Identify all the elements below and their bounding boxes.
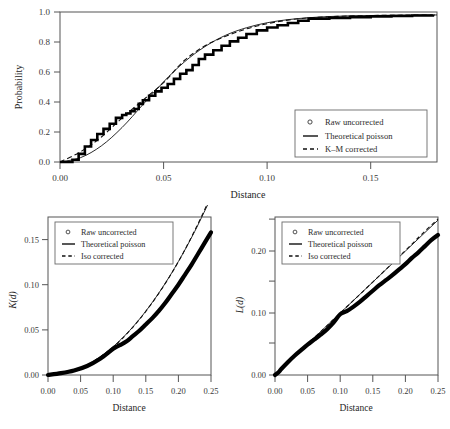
x-axis-tick-labels: 0.00 0.05 0.10 0.15 0.20 0.25 (41, 386, 219, 396)
legend-label-raw: Raw uncorrected (81, 228, 137, 237)
y-axis-ticks (54, 12, 60, 162)
figure-container: 0.0 0.2 0.4 0.6 0.8 1.0 0.00 0.05 0.10 0… (0, 0, 450, 429)
ripley-k-panel: 0.00 0.05 0.10 0.15 0.00 0.05 0.10 0.15 … (0, 205, 225, 429)
x-tick-label: 0.00 (268, 386, 283, 396)
x-tick-label: 0.10 (259, 173, 275, 183)
top-panel-svg: 0.0 0.2 0.4 0.6 0.8 1.0 0.00 0.05 0.10 0… (0, 0, 450, 205)
x-tick-label: 0.00 (41, 386, 56, 396)
x-tick-label: 0.10 (106, 386, 121, 396)
y-tick-label: 1.0 (39, 7, 51, 17)
y-tick-label: 0.6 (39, 67, 51, 77)
x-tick-label: 0.05 (156, 173, 172, 183)
x-tick-label: 0.15 (363, 173, 379, 183)
x-tick-label: 0.20 (171, 386, 186, 396)
legend: Raw uncorrected Theoretical poisson Iso … (282, 222, 400, 264)
x-tick-label: 0.00 (52, 173, 68, 183)
y-tick-label: 0.20 (251, 246, 266, 256)
x-tick-label: 0.05 (300, 386, 315, 396)
bottom-right-panel-svg: 0.00 0.10 0.20 0.00 0.05 0.10 0.15 0.20 … (225, 205, 450, 429)
y-tick-label: 0.2 (39, 127, 50, 137)
x-axis-tick-labels: 0.00 0.05 0.10 0.15 (52, 173, 379, 183)
x-axis-title: Distance (231, 189, 267, 200)
y-axis-ticks (269, 219, 275, 375)
y-tick-label: 0.00 (24, 370, 39, 380)
legend-label-raw: Raw uncorrected (308, 228, 364, 237)
x-axis-tick-labels: 0.00 0.05 0.10 0.15 0.20 0.25 (268, 386, 446, 396)
y-axis-title: L(d) (235, 297, 246, 314)
svg-text:K(d): K(d) (8, 291, 19, 309)
x-tick-label: 0.05 (73, 386, 88, 396)
y-axis-tick-labels: 0.00 0.05 0.10 0.15 (24, 235, 39, 380)
x-axis-ticks (48, 375, 211, 382)
x-tick-label: 0.25 (431, 386, 446, 396)
x-axis-ticks (275, 375, 438, 382)
legend-label-corrected: Iso corrected (308, 252, 351, 261)
legend-label-corrected: K–M corrected (325, 144, 378, 154)
legend-label-raw: Raw uncorrected (325, 117, 384, 127)
y-tick-label: 0.4 (39, 97, 51, 107)
y-axis-title: K(d) (8, 291, 19, 309)
legend: Raw uncorrected Theoretical poisson Iso … (55, 222, 173, 264)
x-tick-label: 0.15 (138, 386, 153, 396)
y-tick-label: 0.05 (24, 325, 39, 335)
y-tick-label: 0.10 (24, 280, 39, 290)
bottom-left-panel-svg: 0.00 0.05 0.10 0.15 0.00 0.05 0.10 0.15 … (0, 205, 225, 429)
y-tick-label: 0.00 (251, 370, 266, 380)
legend: Raw uncorrected Theoretical poisson K–M … (295, 110, 427, 157)
y-axis-ticks (42, 240, 48, 375)
empty-space-function-panel: 0.0 0.2 0.4 0.6 0.8 1.0 0.00 0.05 0.10 0… (0, 0, 450, 205)
svg-text:L(d): L(d) (235, 297, 246, 314)
x-axis-title: Distance (112, 403, 145, 413)
legend-label-corrected: Iso corrected (81, 252, 124, 261)
y-tick-label: 0.10 (251, 308, 266, 318)
y-tick-label: 0.0 (39, 157, 51, 167)
x-tick-label: 0.15 (365, 386, 380, 396)
besag-l-panel: 0.00 0.10 0.20 0.00 0.05 0.10 0.15 0.20 … (225, 205, 450, 429)
legend-label-theoretical: Theoretical poisson (308, 240, 372, 249)
y-tick-label: 0.8 (39, 37, 51, 47)
x-tick-label: 0.20 (398, 386, 413, 396)
y-tick-label: 0.15 (24, 235, 39, 245)
x-axis-ticks (60, 162, 371, 169)
legend-label-theoretical: Theoretical poisson (81, 240, 145, 249)
legend-label-theoretical: Theoretical poisson (325, 131, 393, 141)
y-axis-tick-labels: 0.00 0.10 0.20 (251, 246, 266, 380)
x-tick-label: 0.25 (204, 386, 219, 396)
y-axis-title: Probability (13, 65, 24, 109)
x-axis-title: Distance (339, 403, 372, 413)
x-tick-label: 0.10 (333, 386, 348, 396)
y-axis-tick-labels: 0.0 0.2 0.4 0.6 0.8 1.0 (39, 7, 51, 167)
